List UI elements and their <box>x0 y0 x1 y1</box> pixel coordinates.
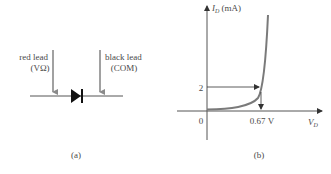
x-axis-label: VD <box>308 117 319 128</box>
black-lead-label: black lead <box>105 52 142 62</box>
caption-a: (a) <box>71 150 81 160</box>
origin-label: 0 <box>199 116 204 126</box>
x-marker-label: 0.67 V <box>250 116 275 126</box>
y-axis-label: ID (mA) <box>211 3 241 14</box>
panel-b: ID (mA) VD 0 2 0.67 V (b) <box>177 3 322 160</box>
diagram-canvas: red lead (VΩ) black lead (COM) (a) ID (m… <box>0 0 331 174</box>
red-lead-label: red lead <box>19 52 48 62</box>
caption-b: (b) <box>254 150 265 160</box>
panel-a: red lead (VΩ) black lead (COM) (a) <box>19 50 142 160</box>
black-lead-terminal: (COM) <box>111 63 138 73</box>
red-lead-terminal: (VΩ) <box>30 63 49 73</box>
diode-iv-curve <box>207 15 268 110</box>
diode-icon <box>71 89 82 103</box>
y-marker-label: 2 <box>199 83 204 93</box>
